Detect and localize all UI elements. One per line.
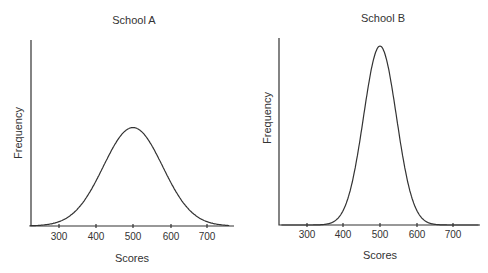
- x-tick-label: 600: [163, 231, 180, 242]
- distribution-curve: [29, 128, 229, 226]
- y-axis-label: Frequency: [12, 107, 24, 159]
- chart-title: School A: [112, 14, 156, 26]
- x-tick-label: 300: [299, 229, 316, 240]
- x-axis-label: Scores: [363, 249, 398, 261]
- x-tick-label: 400: [335, 229, 352, 240]
- x-tick-label: 700: [199, 231, 216, 242]
- x-tick-label: 700: [445, 229, 462, 240]
- x-tick-label: 600: [409, 229, 426, 240]
- y-axis-label: Frequency: [261, 92, 273, 144]
- x-tick-label: 500: [372, 229, 389, 240]
- x-tick-label: 500: [125, 231, 142, 242]
- axes: [279, 38, 480, 225]
- chart-school-a: School A Frequency 300 400 500 600 700 S…: [12, 14, 234, 264]
- x-tick-label: 400: [88, 231, 105, 242]
- axes: [31, 40, 234, 226]
- chart-title: School B: [361, 12, 405, 24]
- x-axis-label: Scores: [115, 252, 150, 264]
- x-tick-label: 300: [51, 231, 68, 242]
- distribution-curve: [281, 46, 478, 225]
- figure: School A Frequency 300 400 500 600 700 S…: [0, 0, 488, 273]
- chart-school-b: School B Frequency 300 400 500 600 700 S…: [261, 12, 480, 261]
